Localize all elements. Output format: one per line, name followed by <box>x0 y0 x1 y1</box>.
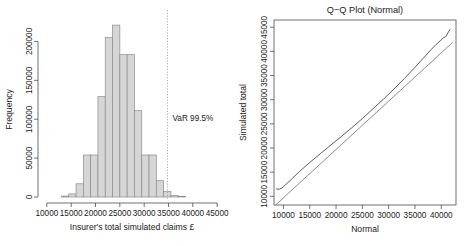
qq-y-tick-label: 15000 <box>260 160 269 183</box>
qq-sample-quantiles-line <box>276 29 450 189</box>
qq-x-tick-label: 15000 <box>298 211 321 220</box>
histogram-x-tick-label: 45000 <box>206 209 229 218</box>
histogram-y-tick-label: 200000 <box>25 27 34 55</box>
histogram-x-axis-title: Insurer's total simulated claims £ <box>70 222 195 232</box>
histogram-y-axis-title: Frequency <box>4 88 14 129</box>
histogram-x-tick-label: 15000 <box>60 209 83 218</box>
qq-plot-title: Q−Q Plot (Normal) <box>327 5 403 15</box>
histogram-x-tick-label: 10000 <box>35 209 58 218</box>
qq-y-tick-label: 40000 <box>260 40 269 63</box>
qq-y-tick-label: 25000 <box>260 112 269 135</box>
qq-x-tick-label: 30000 <box>377 211 400 220</box>
histogram-x-ticks: 1000015000200002500030000350004000045000 <box>35 203 228 218</box>
histogram-bar <box>134 111 141 197</box>
qq-y-tick-label: 30000 <box>260 88 269 111</box>
histogram-y-ticks: 050000100000150000200000 <box>25 27 38 199</box>
qq-y-axis-title: Simulated total <box>238 84 248 141</box>
histogram-bar <box>113 25 120 197</box>
histogram-bar <box>98 97 105 197</box>
qq-x-tick-label: 35000 <box>404 211 427 220</box>
qq-y-tick-label: 35000 <box>260 64 269 87</box>
qq-x-axis-title: Normal <box>351 224 379 234</box>
histogram-bar <box>69 194 76 197</box>
qq-x-tick-label: 20000 <box>325 211 348 220</box>
histogram-bar <box>105 38 112 197</box>
histogram-bar <box>61 196 68 197</box>
histogram-x-tick-label: 40000 <box>181 209 204 218</box>
histogram-bar <box>91 155 98 197</box>
qq-y-tick-label: 20000 <box>260 136 269 159</box>
qq-x-ticks: 10000150002000025000300003500040000 <box>272 205 453 220</box>
histogram-x-tick-label: 25000 <box>108 209 131 218</box>
histogram-x-tick-label: 20000 <box>84 209 107 218</box>
qq-y-tick-label: 45000 <box>260 15 269 38</box>
histogram-svg: VaR 99.5% 050000100000150000200000 10000… <box>0 0 236 246</box>
histogram-bar <box>142 155 149 197</box>
histogram-bar <box>76 184 83 197</box>
histogram-y-tick-label: 150000 <box>25 66 34 94</box>
histogram-bar <box>83 155 90 197</box>
histogram-bar <box>149 155 156 197</box>
qq-plot-panel: Q−Q Plot (Normal) 1000015000200002500030… <box>236 0 471 246</box>
var-annotation-label: VaR 99.5% <box>173 114 214 123</box>
histogram-bars <box>61 25 185 197</box>
qq-x-tick-label: 10000 <box>272 211 295 220</box>
histogram-y-tick-label: 0 <box>25 194 34 199</box>
qq-y-tick-label: 10000 <box>260 184 269 207</box>
qq-x-tick-label: 25000 <box>351 211 374 220</box>
histogram-bar <box>127 55 134 197</box>
qq-plot-svg: Q−Q Plot (Normal) 1000015000200002500030… <box>236 0 471 246</box>
histogram-bar <box>171 196 178 197</box>
histogram-bar <box>120 55 127 197</box>
figure-container: VaR 99.5% 050000100000150000200000 10000… <box>0 0 471 246</box>
qq-plot-frame <box>274 20 456 205</box>
qq-reference-line <box>276 42 453 204</box>
qq-y-ticks: 1000015000200002500030000350004000045000 <box>260 15 274 207</box>
histogram-y-tick-label: 50000 <box>25 146 34 169</box>
qq-x-tick-label: 40000 <box>430 211 453 220</box>
histogram-panel: VaR 99.5% 050000100000150000200000 10000… <box>0 0 236 246</box>
histogram-y-tick-label: 100000 <box>25 105 34 133</box>
histogram-bar <box>156 181 163 197</box>
histogram-x-tick-label: 35000 <box>157 209 180 218</box>
histogram-x-tick-label: 30000 <box>133 209 156 218</box>
